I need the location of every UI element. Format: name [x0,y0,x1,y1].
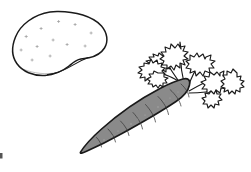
edge-speck [0,153,3,159]
illustration-canvas [0,0,251,172]
